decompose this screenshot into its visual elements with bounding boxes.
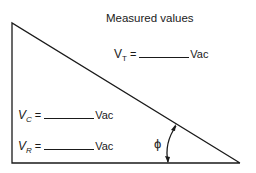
vt-unit: Vac <box>190 48 208 60</box>
vr-blank-field[interactable] <box>44 140 94 150</box>
vc-subscript: C <box>26 114 32 126</box>
vt-blank-field[interactable] <box>139 48 189 58</box>
vc-equals: = <box>35 109 41 121</box>
measured-values-title: Measured values <box>106 12 194 24</box>
vc-blank-field[interactable] <box>44 109 94 119</box>
vr-symbol: V <box>18 140 26 152</box>
vt-subscript: T <box>122 53 127 65</box>
vc-equation: V C = Vac <box>18 109 113 123</box>
arrowhead-top-icon <box>171 124 176 131</box>
phase-angle-label: ϕ <box>154 136 161 151</box>
vc-symbol: V <box>18 109 26 121</box>
vt-equals: = <box>130 48 136 60</box>
vc-unit: Vac <box>95 109 113 121</box>
vr-unit: Vac <box>95 140 113 152</box>
vr-equation: V R = Vac <box>18 140 113 154</box>
vr-equals: = <box>35 140 41 152</box>
vt-symbol: V <box>114 48 122 60</box>
angle-arc <box>167 126 176 162</box>
vt-equation: V T = Vac <box>114 48 208 62</box>
vr-subscript: R <box>26 145 32 157</box>
